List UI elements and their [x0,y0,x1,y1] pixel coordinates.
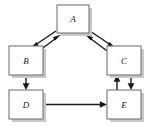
edge-a-to-c-line [90,31,112,46]
node-c-label: C [121,56,128,66]
node-b-label: B [23,56,29,66]
node-e[interactable]: E [107,90,144,122]
node-a[interactable]: A [57,5,92,36]
node-c[interactable]: C [107,46,144,78]
node-d[interactable]: D [9,90,46,122]
edge-a-to-b-line [35,31,57,46]
edge-b-to-d-arrowhead [23,83,30,90]
edge-c-to-a [85,35,107,51]
directed-graph-diagram: A B C D E [0,0,148,127]
node-a-label: A [69,14,76,24]
node-b[interactable]: B [9,46,46,78]
edge-c-to-e-arrowhead [128,83,135,90]
edge-d-to-e [43,101,107,108]
node-d-label: D [22,100,30,110]
edge-c-to-a-line [89,38,107,51]
node-e-label: E [120,100,127,110]
graph-canvas: A B C D E [0,0,148,127]
edge-d-to-e-arrowhead [100,101,107,108]
